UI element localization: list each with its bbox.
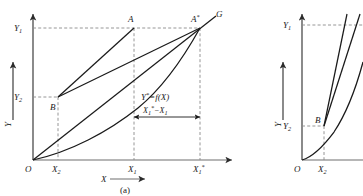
panel-a-x-axis-label: X [100, 174, 107, 184]
panel-b-curve [302, 62, 363, 160]
panel-b-ytick-y2: Y2 [283, 121, 291, 132]
panel-a-xtick-x1: X1 [127, 164, 137, 175]
panel-a-point-b: B [50, 102, 56, 112]
panel-a-xtick-x2: X2 [51, 164, 61, 175]
panel-a-origin-label: O [25, 164, 32, 174]
panel-a-ytick-y1: Y1 [14, 23, 22, 34]
panel-b-y-axis-label: Y [273, 121, 283, 127]
figure-svg: Y X Y1 Y2 O X2 X1 X1* A [0, 0, 363, 196]
panel-b-xtick-x2: X2 [317, 164, 327, 175]
panel-b-point-b: B [315, 115, 321, 125]
figure-root: Y X Y1 Y2 O X2 X1 X1* A [0, 0, 363, 196]
panel-a-ytick-y2: Y2 [14, 92, 22, 103]
panel-b-chord-1 [324, 14, 347, 126]
panel-a-ray-to-g [33, 16, 216, 160]
panel-a-point-astar: A* [190, 13, 201, 24]
panel-a-point-a: A [127, 14, 134, 24]
panel-a-y-axis-label: Y [3, 121, 13, 127]
panel-a-span-label: X1*−X1 [142, 104, 167, 116]
panel-a-xtick-x1star: X1* [192, 163, 206, 175]
panel-b: Y Y1 Y2 O X2 B [273, 14, 363, 175]
panel-a-chord-b-a [58, 28, 134, 97]
panel-b-origin-label: O [294, 164, 301, 174]
panel-a: Y X Y1 Y2 O X2 X1 X1* A [3, 9, 232, 195]
panel-a-curve-label: Y*=f(X) [141, 91, 169, 102]
panel-a-caption: (a) [120, 185, 130, 195]
panel-b-ytick-y1: Y1 [283, 20, 291, 31]
panel-a-point-g: G [216, 9, 223, 19]
panel-b-chord-2 [324, 14, 360, 126]
